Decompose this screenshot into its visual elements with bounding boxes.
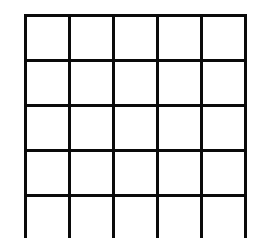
- grid-cell: [159, 152, 203, 197]
- grid-cell: [115, 62, 159, 107]
- grid-cell: [203, 62, 247, 107]
- grid-cell: [159, 17, 203, 62]
- grid-cell: [71, 62, 115, 107]
- grid-cell: [27, 107, 71, 152]
- grid-cell: [203, 197, 247, 238]
- grid-cell: [203, 17, 247, 62]
- empty-grid: [24, 14, 247, 238]
- grid-cell: [159, 197, 203, 238]
- grid-cell: [115, 152, 159, 197]
- grid-cell: [71, 17, 115, 62]
- grid-cell: [71, 152, 115, 197]
- grid-cell: [203, 107, 247, 152]
- grid-cell: [27, 197, 71, 238]
- grid-cell: [115, 17, 159, 62]
- grid-cell: [27, 152, 71, 197]
- grid-cell: [71, 107, 115, 152]
- grid-cell: [203, 152, 247, 197]
- grid-cell: [159, 107, 203, 152]
- canvas: [0, 0, 255, 238]
- grid-cell: [115, 197, 159, 238]
- grid-cell: [115, 107, 159, 152]
- grid-cell: [159, 62, 203, 107]
- grid-cell: [71, 197, 115, 238]
- grid-cell: [27, 17, 71, 62]
- grid-cell: [27, 62, 71, 107]
